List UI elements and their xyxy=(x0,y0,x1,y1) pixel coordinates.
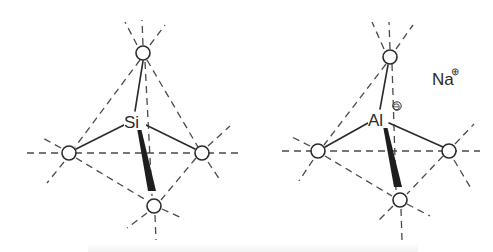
figure-caption-cropped xyxy=(88,243,418,252)
silicate-tetrahedron: Si xyxy=(27,20,240,240)
positive-charge-icon: ⊕ xyxy=(451,66,459,77)
aluminate-tetrahedron: Al ⊖ Na ⊕ xyxy=(282,22,480,240)
tetrahedra-diagram: Si xyxy=(0,0,493,252)
negative-charge-icon: ⊖ xyxy=(392,101,400,112)
silicon-label: Si xyxy=(124,113,139,132)
wedge-bond xyxy=(137,128,156,191)
aluminum-label: Al xyxy=(368,111,383,130)
wedge-bond xyxy=(383,126,402,187)
